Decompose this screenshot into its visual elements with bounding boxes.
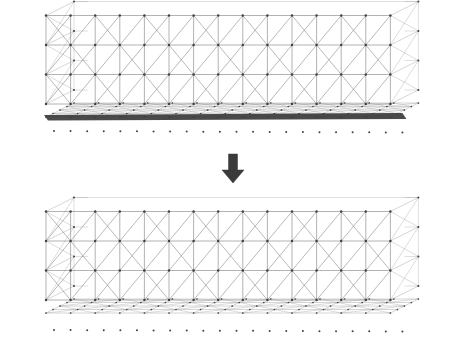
floor-node bbox=[45, 312, 47, 314]
floor-node bbox=[151, 309, 153, 311]
floor-diagonal bbox=[165, 107, 183, 111]
support-dot bbox=[285, 131, 287, 133]
floor-diagonal bbox=[288, 107, 306, 111]
depth-connector bbox=[390, 31, 418, 45]
floor-node bbox=[115, 302, 117, 304]
truss-node-back bbox=[417, 60, 419, 62]
floor-node bbox=[158, 305, 160, 307]
support-dot bbox=[352, 131, 354, 133]
floor-diagonal bbox=[355, 306, 373, 310]
floor-diagonal bbox=[123, 103, 141, 107]
floor-diagonal bbox=[320, 299, 338, 303]
floor-diagonal bbox=[295, 103, 313, 107]
brace-diagonal bbox=[292, 241, 317, 271]
floor-node bbox=[354, 305, 356, 307]
floor-node bbox=[172, 102, 174, 104]
floor-node bbox=[115, 106, 117, 108]
floor-node bbox=[126, 309, 128, 311]
support-dot bbox=[86, 329, 88, 331]
floor-node bbox=[281, 109, 283, 111]
truss-node bbox=[389, 73, 391, 75]
truss-node bbox=[365, 73, 367, 75]
support-dot bbox=[86, 130, 88, 132]
floor-node bbox=[361, 302, 363, 304]
floor-diagonal bbox=[324, 310, 342, 314]
floor-diagonal bbox=[208, 303, 240, 307]
floor-diagonal bbox=[369, 299, 387, 303]
figure-root bbox=[0, 0, 464, 351]
truss-node bbox=[291, 103, 293, 105]
truss-node bbox=[217, 210, 219, 212]
truss-node bbox=[340, 299, 342, 301]
floor-node bbox=[144, 312, 146, 314]
brace-diagonal bbox=[317, 212, 342, 242]
truss-node bbox=[168, 103, 170, 105]
floor-node bbox=[98, 298, 100, 300]
side-wall-diagonal bbox=[390, 271, 418, 287]
support-dot bbox=[119, 130, 121, 132]
floor-node bbox=[305, 109, 307, 111]
truss-node bbox=[143, 44, 145, 46]
truss-node bbox=[242, 44, 244, 46]
floor-node bbox=[73, 102, 75, 104]
panel-optimized-structure bbox=[45, 197, 420, 333]
truss-node bbox=[315, 269, 317, 271]
brace-diagonal bbox=[366, 16, 391, 46]
support-dot bbox=[53, 130, 55, 132]
floor-node bbox=[221, 298, 223, 300]
truss-node bbox=[69, 44, 71, 46]
support-dot bbox=[335, 131, 337, 133]
truss-node-back bbox=[417, 1, 419, 3]
brace-diagonal bbox=[317, 75, 342, 105]
brace-diagonal bbox=[317, 16, 342, 46]
depth-connector bbox=[46, 61, 74, 75]
truss-node-back bbox=[73, 89, 75, 91]
floor-node bbox=[288, 106, 290, 108]
floor-node bbox=[133, 109, 135, 111]
depth-connector bbox=[46, 286, 74, 300]
support-dot bbox=[252, 131, 254, 133]
floor-node bbox=[122, 298, 124, 300]
truss-node bbox=[69, 299, 71, 301]
depth-connector bbox=[390, 257, 418, 271]
floor-node bbox=[217, 312, 219, 314]
brace-diagonal bbox=[267, 212, 292, 242]
floor-node bbox=[182, 305, 184, 307]
floor-diagonal bbox=[341, 310, 373, 314]
truss-node bbox=[217, 299, 219, 301]
support-dot bbox=[236, 330, 238, 332]
floor-node bbox=[312, 106, 314, 108]
floor-node bbox=[347, 309, 349, 311]
floor-node bbox=[66, 106, 68, 108]
truss-node bbox=[389, 210, 391, 212]
floor-diagonal bbox=[123, 299, 141, 303]
brace-diagonal bbox=[120, 212, 145, 242]
floor-diagonal bbox=[74, 103, 92, 107]
support-dot bbox=[153, 130, 155, 132]
brace-diagonal bbox=[95, 241, 120, 271]
brace-diagonal bbox=[169, 16, 194, 46]
floor-diagonal bbox=[92, 107, 110, 111]
support-dot bbox=[103, 329, 105, 331]
floor-diagonal bbox=[60, 303, 92, 307]
floor-diagonal bbox=[331, 110, 349, 114]
floor-node bbox=[59, 109, 61, 111]
depth-connector bbox=[390, 286, 418, 300]
truss-node bbox=[340, 269, 342, 271]
floor-node bbox=[133, 305, 135, 307]
floor-diagonal bbox=[324, 306, 356, 310]
floor-node bbox=[94, 312, 96, 314]
floor-node bbox=[175, 309, 177, 311]
floor-node bbox=[189, 302, 191, 304]
floor-diagonal bbox=[239, 299, 271, 303]
floor-node bbox=[397, 309, 399, 311]
floor-node bbox=[267, 312, 269, 314]
floor-node bbox=[193, 312, 195, 314]
truss-node bbox=[217, 73, 219, 75]
floor-node bbox=[249, 309, 251, 311]
floor-diagonal bbox=[306, 306, 324, 310]
floor-node bbox=[368, 102, 370, 104]
floor-diagonal bbox=[127, 310, 145, 314]
floor-diagonal bbox=[264, 107, 282, 111]
brace-diagonal bbox=[292, 45, 317, 75]
